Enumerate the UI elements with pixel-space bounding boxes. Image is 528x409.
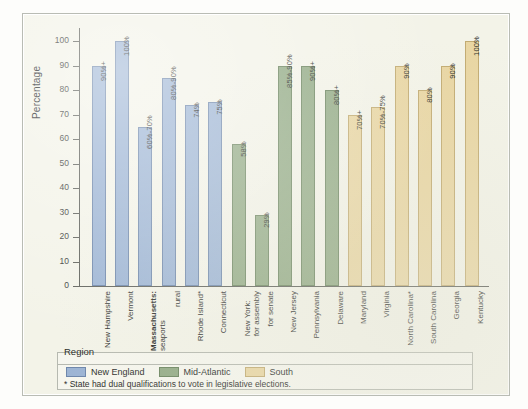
plot-area: 1009080706050403020100 90%+100%60%-70%80… — [79, 28, 489, 287]
legend-items: New EnglandMid-AtlanticSouth — [66, 367, 293, 377]
legend-item-label: Mid-Atlantic — [184, 367, 231, 377]
legend-item[interactable]: Mid-Atlantic — [159, 367, 231, 377]
x-category-label: Pennsylvania — [312, 291, 321, 339]
legend-title: Region — [64, 346, 94, 357]
legend-footnote: * State had dual qualifications to vote … — [64, 379, 291, 389]
bar-value-label: 75% — [215, 99, 224, 115]
y-tick-70: 70 — [73, 115, 79, 116]
legend-color-swatch — [159, 367, 179, 377]
bar[interactable]: 60%-70% — [138, 127, 152, 286]
y-tick-label: 80 — [60, 83, 69, 96]
bar-value-label: 80% — [425, 87, 434, 103]
x-category-label: Delaware — [336, 291, 345, 325]
y-tick-90: 90 — [73, 66, 79, 67]
legend-item[interactable]: South — [245, 367, 294, 377]
legend-item-label: New England — [91, 367, 145, 377]
x-category-label: Connecticut — [219, 291, 228, 333]
bar[interactable]: 90% — [395, 66, 409, 287]
y-tick-label: 90 — [60, 59, 69, 72]
x-category-label: rural — [173, 291, 182, 307]
bar-value-label: 90% — [448, 63, 457, 79]
y-axis-title: Percentage — [31, 66, 42, 119]
bar-value-label: 100% — [122, 36, 131, 56]
bar[interactable]: 74% — [185, 105, 199, 286]
x-category-label: Georgia — [452, 291, 461, 319]
y-tick-label: 70 — [60, 108, 69, 121]
legend-color-swatch — [245, 367, 265, 377]
y-tick-label: 30 — [60, 206, 69, 219]
bar[interactable]: 85%-90% — [278, 66, 292, 287]
bar-value-label: 60%-70% — [145, 115, 154, 149]
bar[interactable]: 29% — [255, 215, 269, 286]
bar-value-label: 70%-75% — [378, 95, 387, 129]
y-tick-label: 100 — [55, 34, 69, 47]
bar-value-label: 58% — [239, 141, 248, 157]
bar[interactable]: 80%-90% — [162, 78, 176, 286]
y-tick-label: 0 — [64, 279, 69, 292]
y-tick-label: 60 — [60, 132, 69, 145]
scanned-page: Percentage 1009080706050403020100 90%+10… — [0, 0, 528, 409]
bar-value-label: 80%+ — [332, 85, 341, 105]
bar[interactable]: 75% — [208, 102, 222, 286]
bar-value-label: 74% — [192, 102, 201, 118]
y-tick-40: 40 — [73, 188, 79, 189]
x-category-label: Massachusetts:seaports — [149, 291, 167, 351]
y-tick-60: 60 — [73, 139, 79, 140]
x-category-label: North Carolina* — [406, 291, 415, 346]
bar-value-label: 90%+ — [99, 60, 108, 80]
x-category-label: Rhode Island* — [196, 291, 205, 341]
chart-panel: Percentage 1009080706050403020100 90%+10… — [22, 13, 510, 396]
bar[interactable]: 70%-75% — [371, 107, 385, 286]
y-tick-20: 20 — [73, 237, 79, 238]
legend-color-swatch — [66, 367, 86, 377]
bar-value-label: 80%-90% — [169, 66, 178, 100]
legend: Region New EnglandMid-AtlanticSouth * St… — [57, 352, 473, 390]
x-category-label: Vermont — [126, 291, 135, 321]
bar[interactable]: 80%+ — [325, 90, 339, 286]
bar-value-label: 90%+ — [308, 60, 317, 80]
bar-value-label: 100% — [472, 36, 481, 56]
y-tick-10: 10 — [73, 262, 79, 263]
x-category-label: New York:for assembly — [243, 291, 261, 336]
bar-value-label: 85%-90% — [285, 54, 294, 88]
x-category-label: New Jersey — [289, 291, 298, 333]
bar[interactable]: 58% — [232, 144, 246, 286]
bar[interactable]: 80% — [418, 90, 432, 286]
y-tick-label: 10 — [60, 255, 69, 268]
y-axis-line — [79, 28, 80, 287]
y-tick-label: 20 — [60, 230, 69, 243]
bar[interactable]: 100% — [115, 41, 129, 286]
bar[interactable]: 90%+ — [301, 66, 315, 287]
bar-value-label: 29% — [262, 212, 271, 228]
y-tick-label: 40 — [60, 181, 69, 194]
x-category-label: New Hampshire — [103, 291, 112, 348]
bar[interactable]: 90%+ — [92, 66, 106, 287]
x-category-label: for senate — [266, 291, 275, 327]
legend-item-label: South — [270, 367, 294, 377]
x-category-label: Kentucky — [476, 291, 485, 324]
bar[interactable]: 90% — [441, 66, 455, 287]
legend-item[interactable]: New England — [66, 367, 145, 377]
bar-value-label: 90% — [402, 63, 411, 79]
y-tick-100: 100 — [73, 41, 79, 42]
y-tick-50: 50 — [73, 164, 79, 165]
x-category-label: South Carolina — [429, 291, 438, 344]
bar[interactable]: 100% — [465, 41, 479, 286]
x-category-label: Maryland — [359, 291, 368, 324]
legend-divider — [58, 364, 472, 365]
bar[interactable]: 70%+ — [348, 115, 362, 287]
y-tick-30: 30 — [73, 213, 79, 214]
x-category-label: Virginia — [382, 291, 391, 318]
bar-value-label: 70%+ — [355, 109, 364, 129]
y-tick-80: 80 — [73, 90, 79, 91]
y-tick-label: 50 — [60, 157, 69, 170]
